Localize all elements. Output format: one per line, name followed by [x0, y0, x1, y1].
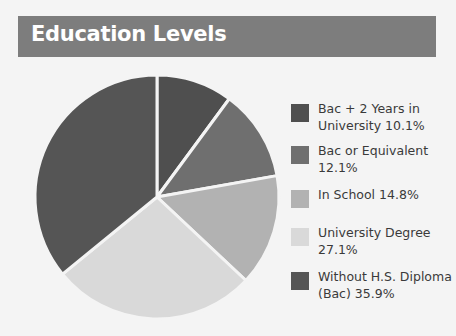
- legend-label: In School 14.8%: [318, 186, 456, 208]
- legend-swatch: [291, 104, 309, 122]
- legend-swatch: [291, 228, 309, 246]
- legend-item: In School 14.8%: [291, 186, 456, 208]
- legend-swatch: [291, 190, 309, 208]
- legend-label: Bac + 2 Years in University 10.1%: [318, 100, 456, 134]
- legend-swatch: [291, 272, 309, 290]
- legend-item: Without H.S. Diploma (Bac) 35.9%: [291, 268, 456, 302]
- legend-swatch: [291, 146, 309, 164]
- legend-item: Bac or Equivalent 12.1%: [291, 142, 456, 176]
- legend-label: Without H.S. Diploma (Bac) 35.9%: [318, 268, 456, 302]
- legend-item: Bac + 2 Years in University 10.1%: [291, 100, 456, 134]
- legend-label: Bac or Equivalent 12.1%: [318, 142, 456, 176]
- legend-item: University Degree 27.1%: [291, 224, 456, 258]
- legend-label: University Degree 27.1%: [318, 224, 456, 258]
